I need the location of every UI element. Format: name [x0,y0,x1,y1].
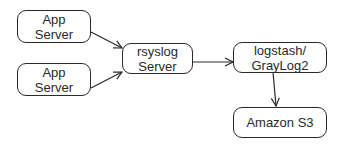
node-logstash-graylog2-line1: logstash/ [254,43,306,58]
node-amazon-s3: Amazon S3 [233,107,327,138]
node-rsyslog-server-line2: Server [138,59,176,74]
node-app-server-1-line2: Server [35,27,73,42]
node-logstash-graylog2: logstash/ GrayLog2 [233,42,327,73]
node-app-server-1-line1: App [42,12,65,27]
node-app-server-2-line2: Server [35,80,73,95]
node-rsyslog-server-line1: rsyslog [137,44,178,59]
node-app-server-2: App Server [17,63,91,96]
node-rsyslog-server: rsyslog Server [122,43,193,74]
node-logstash-graylog2-line2: GrayLog2 [251,58,308,73]
node-app-server-2-line1: App [42,65,65,80]
node-amazon-s3-line1: Amazon S3 [246,115,313,130]
edge-app1-to-rsyslog [91,32,122,48]
edge-app2-to-rsyslog [91,72,122,88]
edge-logstash-to-s3 [273,72,276,106]
node-app-server-1: App Server [17,10,91,43]
